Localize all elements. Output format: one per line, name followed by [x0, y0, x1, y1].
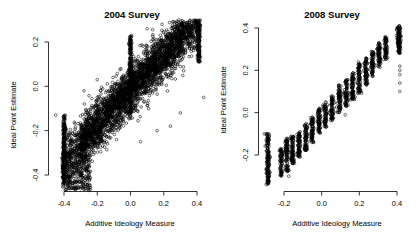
panel-2008-ylabel: Ideal Point Estimate: [219, 66, 228, 134]
panel-2008-ytick-1: 0.2: [241, 65, 250, 75]
panel-2004-ytick-3: -0.4: [31, 169, 40, 182]
panel-2008-ytick-0: 0.4: [241, 23, 250, 33]
panel-2004-ytick-0: 0.2: [31, 37, 40, 47]
panel-2004-xtick-1: -0.2: [91, 199, 104, 208]
panel-2004-xlabel: Additive Ideology Measure: [85, 219, 175, 228]
panel-2008-xtick-2: 0.2: [354, 199, 364, 208]
panel-2008-xlabel: Additive Ideology Measure: [292, 219, 382, 228]
panel-2004-title: 2004 Survey: [104, 9, 160, 20]
panel-2008-ytick-3: -0.2: [241, 149, 250, 162]
panel-2008-title: 2008 Survey: [304, 9, 360, 20]
panel-2004-xtick-3: 0.2: [159, 199, 169, 208]
panel-2008-xtick-3: 0.4: [392, 199, 402, 208]
panel-2004-ytick-2: -0.2: [31, 124, 40, 137]
panel-2004-ytick-1: 0.0: [31, 81, 40, 91]
panel-2008-ytick-2: 0.0: [241, 107, 250, 117]
scatter-figure: 2004 Survey 0.2 0.0 -0.2 -0.4 Ideal Poin…: [0, 0, 420, 249]
panel-2004-xtick-4: 0.4: [192, 199, 202, 208]
panel-2004-ylabel: Ideal Point Estimate: [9, 81, 18, 149]
panel-2008-xtick-0: -0.2: [278, 199, 291, 208]
figure-container: 2004 Survey 0.2 0.0 -0.2 -0.4 Ideal Poin…: [0, 0, 420, 249]
panel-2004-xtick-2: 0.0: [125, 199, 135, 208]
panel-2004-xtick-0: -0.4: [58, 199, 71, 208]
panel-2008-xtick-1: 0.0: [317, 199, 327, 208]
